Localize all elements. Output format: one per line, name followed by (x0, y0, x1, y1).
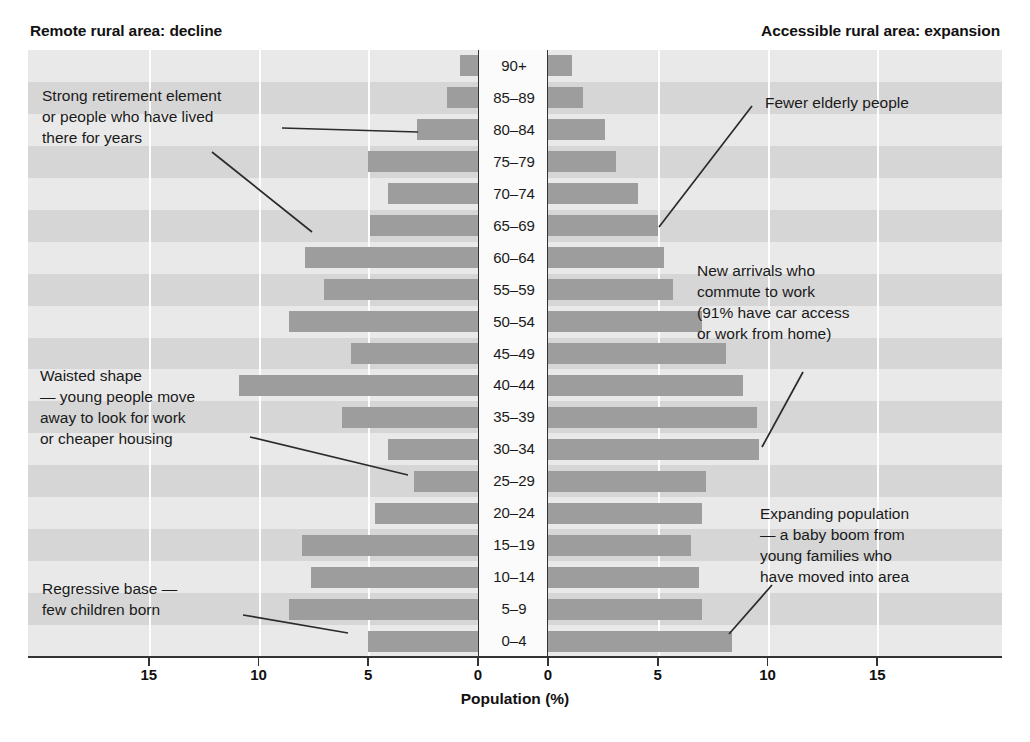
x-tick-right-10-mark (767, 657, 769, 666)
age-group-label: 0–4 (479, 625, 549, 657)
x-tick-left-0-label: 0 (474, 666, 482, 683)
bar-left-65-69 (370, 215, 478, 236)
bar-right-45-49 (548, 343, 726, 364)
x-tick-left-0-mark (477, 657, 479, 666)
chart-row-band (548, 50, 1002, 82)
bar-right-20-24 (548, 503, 702, 524)
age-group-label: 50–54 (479, 306, 549, 338)
x-tick-right-5-mark (657, 657, 659, 666)
annotation-expanding-population: Expanding population — a baby boom from … (760, 503, 909, 587)
bar-right-65-69 (548, 215, 658, 236)
x-tick-right-0-mark (547, 657, 549, 666)
bar-right-85-89 (548, 87, 583, 108)
bar-right-50-54 (548, 311, 702, 332)
chart-row-band (28, 50, 478, 82)
bar-left-30-34 (388, 439, 478, 460)
annotation-regressive-base: Regressive base — few children born (42, 578, 177, 620)
age-group-label: 25–29 (479, 465, 549, 497)
bar-right-30-34 (548, 439, 759, 460)
x-tick-left-10-label: 10 (250, 666, 267, 683)
age-group-label: 35–39 (479, 401, 549, 433)
bar-left-90- (460, 55, 478, 76)
age-group-label: 30–34 (479, 433, 549, 465)
bar-left-85-89 (447, 87, 478, 108)
bar-right-5-9 (548, 599, 702, 620)
x-tick-right-15-mark (876, 657, 878, 666)
chart-row-band (28, 465, 478, 497)
bar-left-25-29 (414, 471, 478, 492)
x-tick-right-5-label: 5 (654, 666, 662, 683)
bar-right-55-59 (548, 279, 673, 300)
age-group-label: 20–24 (479, 497, 549, 529)
bar-left-40-44 (239, 375, 478, 396)
bar-right-80-84 (548, 119, 605, 140)
bar-left-55-59 (324, 279, 478, 300)
right-panel-title: Accessible rural area: expansion (761, 22, 1000, 40)
x-tick-left-5-mark (367, 657, 369, 666)
left-panel-title: Remote rural area: decline (30, 22, 222, 40)
bar-right-60-64 (548, 247, 664, 268)
chart-row-band (548, 114, 1002, 146)
age-group-label: 85–89 (479, 82, 549, 114)
age-group-label: 60–64 (479, 242, 549, 274)
bar-right-75-79 (548, 151, 616, 172)
x-tick-left-10-mark (258, 657, 260, 666)
bar-right-40-44 (548, 375, 743, 396)
bar-left-45-49 (351, 343, 478, 364)
x-tick-left-5-label: 5 (364, 666, 372, 683)
annotation-waisted-shape: Waisted shape — young people move away t… (40, 365, 195, 449)
bar-left-10-14 (311, 567, 478, 588)
bar-left-70-74 (388, 183, 478, 204)
x-tick-right-0-label: 0 (544, 666, 552, 683)
bar-right-10-14 (548, 567, 699, 588)
bar-right-90- (548, 55, 572, 76)
population-pyramid-figure: Remote rural area: decline Accessible ru… (0, 0, 1030, 742)
bar-right-35-39 (548, 407, 757, 428)
age-group-label: 5–9 (479, 593, 549, 625)
age-group-label: 45–49 (479, 338, 549, 370)
x-tick-right-15-label: 15 (869, 666, 886, 683)
bar-left-60-64 (305, 247, 478, 268)
bar-left-5-9 (289, 599, 478, 620)
x-axis-line (28, 656, 1002, 658)
bar-left-80-84 (417, 119, 478, 140)
bar-left-75-79 (368, 151, 478, 172)
age-group-label: 75–79 (479, 146, 549, 178)
age-group-label: 40–44 (479, 369, 549, 401)
age-group-label: 70–74 (479, 178, 549, 210)
bar-right-15-19 (548, 535, 691, 556)
age-group-label: 90+ (479, 50, 549, 82)
x-tick-right-10-label: 10 (759, 666, 776, 683)
annotation-new-arrivals: New arrivals who commute to work (91% ha… (697, 260, 850, 344)
bar-left-35-39 (342, 407, 478, 428)
x-tick-left-15-mark (148, 657, 150, 666)
bar-left-0-4 (368, 631, 478, 652)
chart-row-band (548, 146, 1002, 178)
age-group-label: 80–84 (479, 114, 549, 146)
age-group-label: 10–14 (479, 561, 549, 593)
age-group-label: 65–69 (479, 210, 549, 242)
age-group-axis-column: 90+85–8980–8475–7970–7465–6960–6455–5950… (478, 50, 548, 657)
bar-left-50-54 (289, 311, 478, 332)
x-axis-caption: Population (%) (0, 690, 1030, 708)
bar-right-70-74 (548, 183, 638, 204)
age-group-label: 55–59 (479, 274, 549, 306)
gridline (259, 50, 261, 657)
bar-right-25-29 (548, 471, 706, 492)
bar-left-15-19 (302, 535, 478, 556)
bar-right-0-4 (548, 631, 732, 652)
bar-left-20-24 (375, 503, 478, 524)
x-tick-left-15-label: 15 (140, 666, 157, 683)
annotation-fewer-elderly: Fewer elderly people (765, 92, 909, 113)
annotation-retirement: Strong retirement element or people who … (42, 85, 221, 148)
age-group-label: 15–19 (479, 529, 549, 561)
